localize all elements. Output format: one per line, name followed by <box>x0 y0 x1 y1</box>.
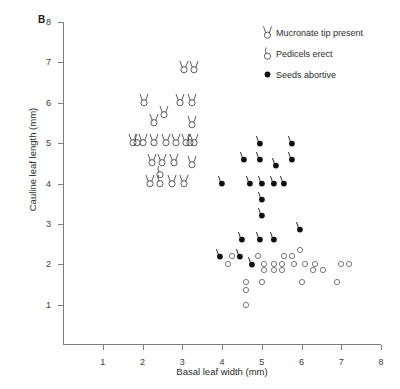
x-tick-3: 3 <box>182 345 183 350</box>
open-circle-marker <box>224 261 231 268</box>
open-circle-marker <box>278 267 285 274</box>
mucronate-tip-marker <box>188 115 197 128</box>
open-circle-marker <box>338 261 345 268</box>
open-circle-marker <box>242 279 249 286</box>
legend-label-1: Mucronate tip present <box>276 28 363 38</box>
y-tick-3: 3 <box>58 224 63 225</box>
y-tick-5: 5 <box>58 143 63 144</box>
seeds-abortive-marker <box>279 175 288 187</box>
y-tick-label-8: 8 <box>46 17 51 27</box>
y-axis-title: Cauline leaf length (mm) <box>27 10 38 310</box>
open-circle-marker <box>242 287 249 294</box>
open-circle-marker <box>310 267 317 274</box>
x-tick-5: 5 <box>262 345 263 350</box>
open-circle-marker <box>258 279 265 286</box>
y-tick-label-4: 4 <box>46 179 51 189</box>
figure-panel-b: B 12345678 12345678 Basal leaf width (mm… <box>0 0 400 389</box>
seeds-abortive-marker <box>216 248 225 260</box>
y-tick-label-7: 7 <box>46 57 51 67</box>
mucronate-tip-marker <box>180 61 189 74</box>
legend-label-3: Seeds abortive <box>276 70 336 80</box>
mucronate-tip-marker <box>172 134 181 147</box>
legend: Mucronate tip presentPedicels erectSeeds… <box>258 22 398 85</box>
seeds-abortive-marker <box>255 151 264 163</box>
seeds-abortive-marker <box>257 175 266 187</box>
mucronate-tip-icon <box>258 26 276 39</box>
seeds-abortive-marker <box>237 231 246 243</box>
x-axis-title: Basal leaf width (mm) <box>63 366 381 377</box>
open-circle-marker <box>334 279 341 286</box>
legend-row-1: Mucronate tip present <box>258 22 398 43</box>
y-tick-label-2: 2 <box>46 259 51 269</box>
x-tick-8: 8 <box>381 345 382 350</box>
legend-label-2: Pedicels erect <box>276 49 333 59</box>
x-tick-1: 1 <box>103 345 104 350</box>
x-tick-4: 4 <box>222 345 223 350</box>
seeds-abortive-marker <box>245 175 254 187</box>
seeds-abortive-marker <box>269 231 278 243</box>
mucronate-tip-marker <box>176 93 185 106</box>
seeds-abortive-marker <box>257 191 266 203</box>
y-tick-label-5: 5 <box>46 138 51 148</box>
seeds-abortive-marker <box>271 157 280 169</box>
x-tick-2: 2 <box>143 345 144 350</box>
mucronate-tip-marker <box>188 93 197 106</box>
open-circle-marker <box>280 253 287 260</box>
y-tick-7: 7 <box>58 62 63 63</box>
y-tick-2: 2 <box>58 264 63 265</box>
pedicels-erect-marker <box>132 134 141 147</box>
pedicels-erect-icon <box>258 47 276 60</box>
seeds-abortive-marker <box>269 175 278 187</box>
legend-row-3: Seeds abortive <box>258 64 398 85</box>
seeds-abortive-marker <box>239 151 248 163</box>
mucronate-tip-marker <box>162 134 171 147</box>
mucronate-tip-marker <box>160 105 169 118</box>
mucronate-tip-marker <box>158 154 167 167</box>
seeds-abortive-marker <box>257 207 266 219</box>
mucronate-tip-marker <box>180 174 189 187</box>
seeds-abortive-icon <box>258 71 276 78</box>
open-circle-marker <box>302 261 309 268</box>
mucronate-tip-marker <box>140 93 149 106</box>
mucronate-tip-marker <box>150 113 159 126</box>
seeds-abortive-marker <box>295 221 304 233</box>
mucronate-tip-marker <box>146 174 155 187</box>
panel-label: B <box>38 14 45 25</box>
y-tick-label-6: 6 <box>46 98 51 108</box>
open-circle-marker <box>270 267 277 274</box>
mucronate-tip-marker <box>150 134 159 147</box>
legend-row-2: Pedicels erect <box>258 43 398 64</box>
y-tick-1: 1 <box>58 305 63 306</box>
seeds-abortive-marker <box>287 151 296 163</box>
seeds-abortive-marker <box>255 135 264 147</box>
open-circle-marker <box>320 267 327 274</box>
y-tick-4: 4 <box>58 184 63 185</box>
y-axis-line <box>63 22 64 345</box>
open-circle-marker <box>290 261 297 268</box>
open-circle-marker <box>296 247 303 254</box>
y-tick-label-1: 1 <box>46 300 51 310</box>
mucronate-tip-marker <box>190 61 199 74</box>
mucronate-tip-marker <box>148 154 157 167</box>
y-tick-6: 6 <box>58 103 63 104</box>
y-tick-8: 8 <box>58 22 63 23</box>
pedicels-erect-marker <box>156 174 165 187</box>
seeds-abortive-marker <box>218 175 227 187</box>
open-circle-marker <box>254 253 261 260</box>
pedicels-erect-marker <box>186 134 195 147</box>
seeds-abortive-marker <box>255 231 264 243</box>
open-circle-marker <box>228 253 235 260</box>
seeds-abortive-marker <box>287 135 296 147</box>
mucronate-tip-marker <box>170 154 179 167</box>
open-circle-marker <box>298 279 305 286</box>
open-circle-marker <box>242 301 249 308</box>
open-circle-marker <box>288 253 295 260</box>
mucronate-tip-marker <box>168 174 177 187</box>
seeds-abortive-marker <box>235 248 244 260</box>
x-tick-6: 6 <box>302 345 303 350</box>
mucronate-tip-marker <box>188 156 197 169</box>
x-tick-7: 7 <box>341 345 342 350</box>
y-tick-label-3: 3 <box>46 219 51 229</box>
open-circle-marker <box>346 261 353 268</box>
open-circle-marker <box>260 267 267 274</box>
